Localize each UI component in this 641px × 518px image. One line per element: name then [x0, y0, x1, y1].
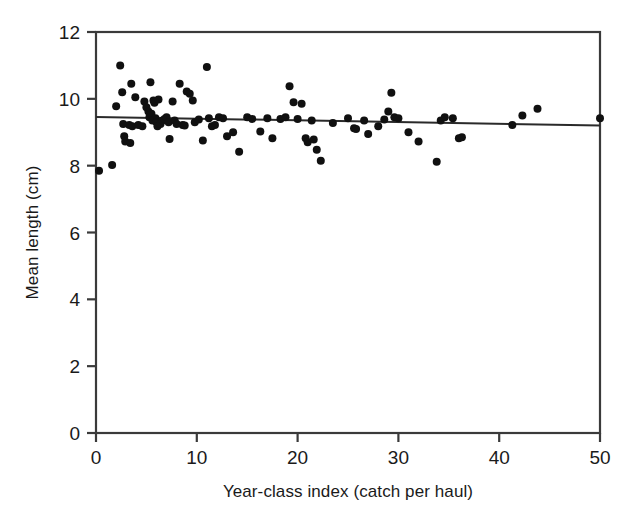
data-point: [596, 114, 604, 122]
data-point: [415, 138, 423, 146]
data-point: [290, 98, 298, 106]
data-point: [518, 112, 526, 120]
y-axis-tick-label: 0: [69, 423, 80, 444]
x-axis-tick-label: 50: [589, 447, 610, 468]
data-point: [294, 115, 302, 123]
data-point: [387, 89, 395, 97]
data-point: [127, 80, 135, 88]
data-point: [360, 117, 368, 125]
plot-frame: [96, 32, 600, 433]
data-point: [286, 82, 294, 90]
data-point: [329, 119, 337, 127]
data-point: [154, 96, 162, 104]
data-point: [229, 128, 237, 136]
y-axis-tick-label: 8: [69, 156, 80, 177]
y-axis-tick-label: 4: [69, 289, 80, 310]
data-point: [364, 130, 372, 138]
data-point: [195, 116, 203, 124]
data-point: [199, 137, 207, 145]
data-point: [138, 122, 146, 130]
data-point: [166, 135, 174, 143]
chart-canvas: 02468101201020304050Year-class index (ca…: [0, 0, 641, 518]
data-point: [310, 136, 318, 144]
x-axis-tick-label: 20: [287, 447, 308, 468]
data-point: [344, 114, 352, 122]
y-axis-title: Mean length (cm): [23, 166, 42, 300]
x-axis-tick-label: 40: [489, 447, 510, 468]
data-point: [433, 158, 441, 166]
data-point: [308, 117, 316, 125]
data-point: [235, 148, 243, 156]
data-point: [131, 93, 139, 101]
data-point: [268, 134, 276, 142]
data-point: [256, 128, 264, 136]
y-axis-tick-label: 10: [59, 89, 80, 110]
y-axis-tick-label: 12: [59, 22, 80, 43]
data-point: [118, 88, 126, 96]
data-point: [116, 61, 124, 69]
data-point: [508, 121, 516, 129]
data-point: [181, 122, 189, 130]
data-point: [108, 161, 116, 169]
data-point: [205, 114, 213, 122]
data-point: [394, 114, 402, 122]
data-point: [384, 108, 392, 116]
x-axis-tick-label: 30: [388, 447, 409, 468]
data-point: [441, 113, 449, 121]
data-point: [169, 98, 177, 106]
data-point: [449, 114, 457, 122]
data-point: [352, 125, 360, 133]
x-axis-tick-label: 0: [91, 447, 102, 468]
data-point: [189, 97, 197, 105]
data-point: [95, 167, 103, 175]
x-axis-title: Year-class index (catch per haul): [223, 482, 473, 501]
data-point: [380, 116, 388, 124]
data-point: [534, 105, 542, 113]
data-point: [282, 113, 290, 121]
y-axis-tick-label: 6: [69, 223, 80, 244]
data-point: [317, 157, 325, 165]
data-point: [112, 102, 120, 110]
data-point: [404, 128, 412, 136]
data-point: [263, 114, 271, 122]
data-point: [176, 80, 184, 88]
scatter-plot-figure: 02468101201020304050Year-class index (ca…: [0, 0, 641, 518]
data-point: [219, 114, 227, 122]
data-point: [203, 63, 211, 71]
data-point: [248, 115, 256, 123]
data-point: [126, 139, 134, 147]
data-point: [458, 133, 466, 141]
data-point: [211, 121, 219, 129]
data-point: [146, 78, 154, 86]
x-axis-tick-label: 10: [186, 447, 207, 468]
data-point: [313, 146, 321, 154]
y-axis-tick-label: 2: [69, 356, 80, 377]
data-point: [374, 122, 382, 130]
data-point: [298, 100, 306, 108]
